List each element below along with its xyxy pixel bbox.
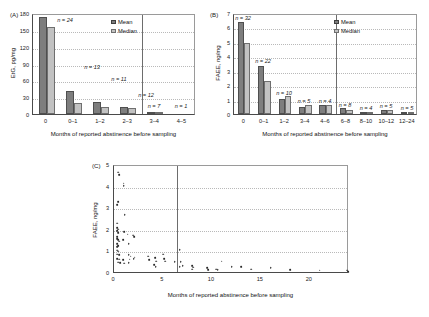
x-tick-label: 3–4	[150, 118, 159, 124]
y-tick-label: 5	[99, 162, 109, 168]
scatter-point	[191, 269, 193, 271]
y-tick-label: 4	[99, 184, 109, 190]
bar-median	[346, 110, 352, 114]
panel-b-label: (B)	[210, 11, 218, 18]
x-tick-label: 20	[306, 276, 312, 282]
scatter-point	[118, 232, 120, 234]
panel-a-x-axis-title: Months of reported abstinence before sam…	[32, 131, 195, 137]
panel-c-y-axis-title: FAEE, ng/mg	[92, 190, 98, 250]
legend-swatch-median-icon	[334, 29, 339, 34]
scatter-point	[127, 233, 129, 235]
scatter-point	[250, 269, 252, 271]
y-tick-label: 3	[99, 205, 109, 211]
gridline	[33, 49, 194, 50]
bar-median	[155, 112, 163, 114]
bar-mean	[147, 112, 155, 114]
y-tick-label: 60	[13, 78, 29, 84]
scatter-point	[117, 201, 119, 203]
x-tick-label: 4–6	[320, 118, 329, 124]
scatter-point	[180, 261, 182, 263]
scatter-point	[118, 245, 120, 247]
n-annotation: n = 10	[276, 90, 292, 96]
y-tick-label: 6	[218, 25, 230, 31]
y-tick-label: 0	[13, 112, 29, 118]
x-tick-label: 1–2	[95, 118, 104, 124]
scatter-point	[270, 267, 272, 269]
scatter-point	[174, 261, 176, 263]
n-annotation: n = 13	[84, 64, 100, 70]
x-tick-label: 10	[208, 276, 214, 282]
bar-median	[128, 108, 136, 114]
x-tick-label: 0	[242, 118, 245, 124]
scatter-point	[118, 240, 120, 242]
y-tick-label: 3	[218, 69, 230, 75]
bar-median	[101, 107, 109, 114]
scatter-point	[231, 266, 233, 268]
gridline	[234, 29, 416, 30]
scatter-point	[240, 266, 242, 268]
scatter-point	[133, 236, 135, 238]
scatter-point	[129, 259, 131, 261]
x-tick-label: 8–10	[360, 118, 372, 124]
x-tick-label: 0–1	[259, 118, 268, 124]
panel-b-x-axis-title: Months of reported abstinence before sam…	[233, 131, 417, 137]
legend-item-mean: Mean	[111, 19, 137, 25]
bar-median	[74, 103, 82, 115]
panel-a-divider	[142, 15, 143, 114]
bar-median	[264, 81, 270, 114]
bar-mean	[66, 91, 74, 114]
x-tick-label: 5	[160, 276, 163, 282]
scatter-point	[116, 230, 118, 232]
n-annotation: n = 4	[319, 98, 332, 104]
scatter-point	[118, 259, 120, 261]
legend-label-mean: Mean	[341, 19, 356, 25]
n-annotation: n = 22	[255, 58, 271, 64]
panel-b-legend: Mean Median	[334, 19, 360, 37]
panel-a-legend: Mean Median	[111, 19, 137, 37]
legend-label-mean: Mean	[118, 19, 133, 25]
scatter-point	[179, 249, 181, 251]
y-tick-label: 0	[218, 112, 230, 118]
x-tick-label: 0	[44, 118, 47, 124]
x-tick-label: 12–24	[399, 118, 415, 124]
scatter-point	[163, 258, 165, 260]
bar-median	[285, 96, 291, 114]
panel-c: (C) FAEE, ng/mg 5 4 3 2 1 0 0 5 10 15 20	[70, 155, 370, 317]
n-annotation: n = 5	[401, 105, 414, 111]
y-tick-label: 2	[99, 227, 109, 233]
legend-label-median: Median	[341, 28, 360, 34]
bar-median	[408, 112, 414, 114]
y-tick-label: 90	[13, 62, 29, 68]
scatter-point	[164, 260, 166, 262]
n-annotation: n = 12	[138, 92, 154, 98]
scatter-point	[123, 185, 125, 187]
scatter-point	[124, 214, 126, 216]
bar-median	[326, 105, 332, 114]
scatter-point	[128, 243, 130, 245]
n-annotation: n = 5	[380, 103, 393, 109]
y-tick-label: 5	[218, 40, 230, 46]
panel-a-plot-area: Mean Median	[32, 14, 195, 115]
scatter-point	[117, 204, 119, 206]
y-tick-label: 180	[13, 11, 29, 17]
x-tick-label: 2–3	[122, 118, 131, 124]
scatter-point	[182, 265, 184, 267]
bar-mean	[120, 107, 128, 114]
n-annotation: n = 4	[360, 105, 373, 111]
legend-item-mean: Mean	[334, 19, 360, 25]
bar-median	[244, 43, 250, 114]
figure-root: (A) EtG, pg/mg 180 150 120 90 60 30 0	[0, 0, 429, 317]
n-annotation: n = 5	[298, 98, 311, 104]
scatter-point	[130, 256, 132, 258]
scatter-points-layer	[114, 166, 347, 272]
gridline	[33, 99, 194, 100]
scatter-point	[347, 271, 349, 273]
scatter-point	[123, 263, 125, 265]
x-tick-label: 0	[111, 276, 114, 282]
y-tick-label: 30	[13, 95, 29, 101]
bar-median	[387, 110, 393, 114]
scatter-point	[122, 259, 124, 261]
scatter-point	[154, 257, 156, 259]
scatter-point	[116, 223, 118, 225]
y-tick-label: 0	[99, 270, 109, 276]
